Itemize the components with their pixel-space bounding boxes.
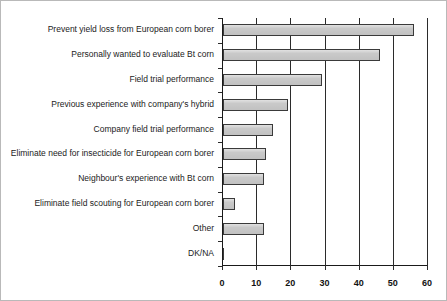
y-tick-1 — [218, 43, 222, 44]
x-tick-label-0: 0 — [210, 278, 234, 288]
y-tick-8 — [218, 216, 222, 217]
x-tick-10 — [256, 266, 257, 270]
x-tick-60 — [427, 266, 428, 270]
y-tick-4 — [218, 117, 222, 118]
category-label: Eliminate need for insecticide for Europ… — [11, 148, 214, 158]
x-tick-50 — [393, 266, 394, 270]
y-tick-6 — [218, 167, 222, 168]
bar — [223, 74, 322, 86]
x-tick-30 — [325, 266, 326, 270]
x-tick-40 — [359, 266, 360, 270]
category-label: Neighbour's experience with Bt corn — [78, 173, 214, 183]
bar — [223, 173, 264, 185]
y-tick-9 — [218, 241, 222, 242]
bar — [223, 223, 264, 235]
chart-screenshot: Prevent yield loss from European corn bo… — [0, 0, 447, 301]
y-tick-7 — [218, 192, 222, 193]
y-tick-5 — [218, 142, 222, 143]
x-tick-label-60: 60 — [415, 278, 439, 288]
bar — [223, 148, 266, 160]
y-tick-10 — [218, 266, 222, 267]
x-tick-20 — [290, 266, 291, 270]
category-label: Previous experience with company's hybri… — [51, 99, 214, 109]
gridline-50 — [393, 18, 394, 266]
plot-area: 0102030405060 — [222, 18, 427, 266]
x-tick-0 — [222, 266, 223, 270]
category-label: DK/NA — [188, 248, 214, 258]
category-label: Prevent yield loss from European corn bo… — [48, 24, 214, 34]
bar — [223, 248, 224, 260]
x-tick-label-30: 30 — [313, 278, 337, 288]
bar — [223, 198, 235, 210]
x-tick-label-40: 40 — [347, 278, 371, 288]
bar — [223, 124, 273, 136]
category-label: Field trial performance — [129, 74, 214, 84]
category-label: Personally wanted to evaluate Bt corn — [71, 49, 214, 59]
category-label: Other — [193, 223, 214, 233]
category-axis-labels: Prevent yield loss from European corn bo… — [1, 18, 218, 266]
gridline-60 — [427, 18, 428, 266]
bar — [223, 49, 380, 61]
y-tick-0 — [218, 18, 222, 19]
bar — [223, 99, 288, 111]
x-tick-label-20: 20 — [278, 278, 302, 288]
category-label: Eliminate field scouting for European co… — [34, 198, 214, 208]
x-tick-label-50: 50 — [381, 278, 405, 288]
bar — [223, 24, 414, 36]
category-label: Company field trial performance — [94, 124, 214, 134]
y-tick-2 — [218, 68, 222, 69]
x-tick-label-10: 10 — [244, 278, 268, 288]
y-tick-3 — [218, 92, 222, 93]
